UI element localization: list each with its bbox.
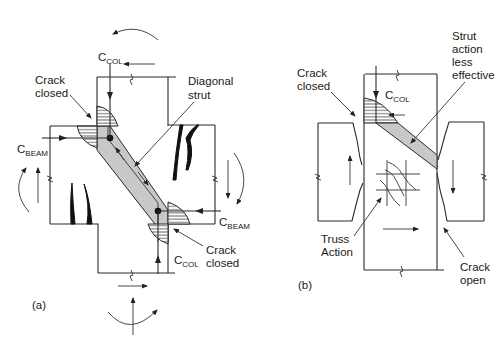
label-crack-closed-b: Crack closed [297, 67, 330, 92]
panel-a: CCOL CBEAM CBEAM CCOL Crack closed Diago… [17, 29, 250, 335]
break-mark-left-b [315, 174, 321, 180]
break-mark-bottom-b [400, 266, 403, 277]
label-diagonal-strut: Diagonal strut [188, 75, 237, 101]
panel-b: CCOL Crack closed Strut action less effe… [297, 30, 495, 291]
label-crack-closed-bottom-a: Crack closed [206, 244, 239, 269]
leader-crack-open [444, 228, 464, 257]
label-c-col-top-a: CCOL [98, 51, 123, 66]
break-mark-right-b [481, 174, 487, 180]
leader-strut-less-effective [411, 82, 465, 143]
panel-label-a: (a) [32, 299, 46, 311]
strut-less-effective [376, 123, 437, 169]
label-c-col-bottom-a: CCOL [174, 254, 199, 269]
label-strut-less-effective: Strut action less effective [452, 30, 495, 81]
label-crack-closed-top-a: Crack closed [35, 74, 68, 99]
label-crack-open: Crack open [460, 261, 493, 286]
compression-zone-left-a [77, 126, 97, 148]
leader-diagonal-strut [135, 102, 194, 166]
break-mark-left-a [47, 176, 53, 182]
crack-left-beam-2 [84, 184, 92, 224]
moment-arc-right-a [234, 153, 244, 204]
crack-left-beam-1 [71, 183, 75, 224]
label-truss-action: Truss Action [321, 233, 353, 258]
break-mark-top-b [396, 70, 399, 81]
break-mark-top-a [130, 74, 133, 85]
compression-zone-top-a [97, 106, 118, 126]
label-c-beam-right-a: CBEAM [219, 216, 250, 231]
break-mark-right-a [212, 176, 218, 182]
moment-arc-top-a [113, 29, 158, 40]
leader-crack-closed-top-a [70, 95, 91, 118]
moment-arc-bottom-a [108, 310, 157, 325]
truss-action-grid [376, 160, 420, 206]
crack-right-beam-1 [173, 125, 183, 180]
beam-column-joint-diagram: CCOL CBEAM CBEAM CCOL Crack closed Diago… [0, 0, 504, 345]
leader-truss-action [354, 198, 381, 236]
leader-crack-closed-b [331, 92, 355, 116]
label-c-col-top-b: CCOL [385, 89, 410, 104]
leader-crack-closed-bottom-a [174, 229, 203, 246]
break-mark-bottom-a [130, 270, 133, 281]
crack-right-beam-2 [186, 125, 199, 170]
moment-arc-left-a [19, 168, 29, 212]
panel-label-b: (b) [298, 279, 312, 291]
label-c-beam-left-a: CBEAM [17, 143, 48, 158]
compression-zone-right-a [168, 202, 190, 224]
